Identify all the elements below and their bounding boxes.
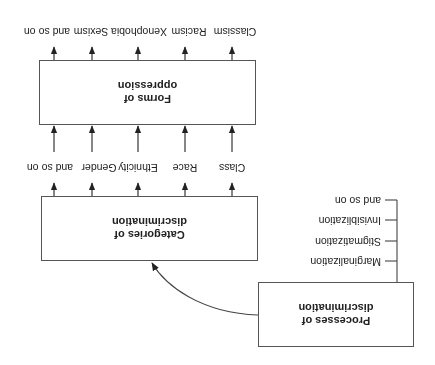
forms-box-to-labels-arrows xyxy=(54,47,232,60)
form-label: Sexism xyxy=(74,26,108,38)
processes-to-categories-arrow xyxy=(152,263,258,315)
categories-box-to-labels-arrows xyxy=(54,183,232,196)
processes-title-line2: discrimination xyxy=(298,302,373,315)
form-label: and so on xyxy=(24,26,70,38)
form-label: Racism xyxy=(171,26,206,38)
categories-title-line1: Categories of xyxy=(112,229,187,242)
category-label: Race xyxy=(173,162,198,174)
category-label: and so on xyxy=(27,162,73,174)
process-item: Marginalization xyxy=(310,256,381,268)
forms-title-line1: Forms of xyxy=(118,93,177,106)
category-label: Class xyxy=(219,162,245,174)
form-label: Xenophobia xyxy=(111,26,167,38)
categories-box: Categories of discrimination xyxy=(41,196,258,261)
process-item: and so on xyxy=(335,195,381,207)
form-label: Classism xyxy=(214,26,257,38)
process-item: Invisiblization xyxy=(319,215,381,227)
processes-box: Processes of discrimination xyxy=(258,282,414,347)
process-item: Stigmatization xyxy=(315,236,381,248)
forms-box: Forms of oppression xyxy=(39,60,256,125)
categories-title-line2: discrimination xyxy=(112,216,187,229)
category-label: Ethnicity xyxy=(118,162,158,174)
labels-to-forms-box-arrows xyxy=(54,126,232,152)
processes-title-line1: Processes of xyxy=(298,315,373,328)
category-label: Gender xyxy=(81,162,116,174)
forms-title-line2: oppression xyxy=(118,80,177,93)
diagram-stage: Processes of discrimination Marginalizat… xyxy=(0,0,435,365)
